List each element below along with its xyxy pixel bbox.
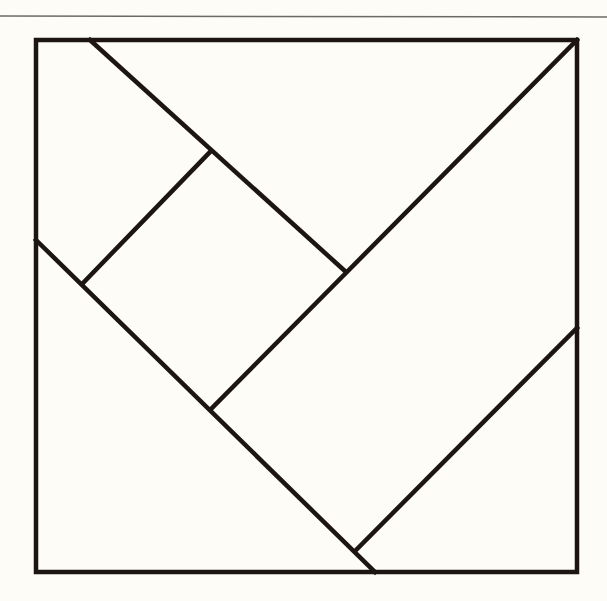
long-diagonal-line (212, 40, 577, 408)
lower-right-diagonal-line (356, 328, 577, 550)
tangram-diagram (0, 0, 607, 601)
top-rule-line (0, 16, 607, 17)
small-square-edge-line (83, 152, 210, 283)
lower-left-diagonal-line (36, 240, 375, 572)
dissection-lines (36, 40, 577, 572)
